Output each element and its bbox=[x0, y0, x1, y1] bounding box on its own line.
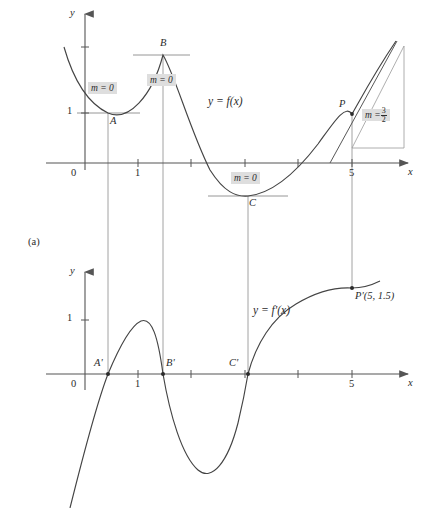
point-marker-P-prime bbox=[350, 286, 354, 290]
top-y-axis-label: y bbox=[70, 8, 75, 19]
point-label-C-prime: C' bbox=[229, 358, 238, 369]
top-x-tick-label-5: 5 bbox=[349, 168, 354, 179]
calculus-figure: y x 0 1 1 5 y = f(x) A B C P m = 0 m = 0… bbox=[0, 0, 424, 508]
slope-annotation-C: m = 0 bbox=[231, 174, 260, 184]
curve-f-prime bbox=[70, 281, 380, 508]
point-marker-B-prime bbox=[161, 372, 165, 376]
top-graph-panel bbox=[46, 14, 408, 374]
slope-annotation-P: m =32 bbox=[362, 107, 390, 125]
slope-annotation-C-text: m = 0 bbox=[231, 172, 260, 184]
bottom-x-tick-label-5: 5 bbox=[349, 379, 354, 390]
panel-label-a: (a) bbox=[28, 237, 40, 248]
slope-triangle-hypotenuse bbox=[352, 46, 404, 148]
curve-label-f: y = f(x) bbox=[208, 96, 243, 108]
bottom-y-axis-label: y bbox=[70, 266, 75, 277]
slope-annotation-B: m = 0 bbox=[147, 76, 176, 86]
slope-fraction: 32 bbox=[381, 107, 387, 125]
point-marker-C-prime bbox=[246, 372, 250, 376]
curve-label-f-prime: y = f'(x) bbox=[253, 305, 290, 317]
slope-annotation-P-wrap: m =32 bbox=[362, 109, 390, 121]
top-x-tick-label-1: 1 bbox=[135, 168, 140, 179]
point-label-A-prime: A' bbox=[94, 358, 103, 369]
bottom-origin-label: 0 bbox=[71, 379, 76, 390]
point-label-P-prime: P'(5, 1.5) bbox=[355, 291, 394, 302]
top-x-axis-label: x bbox=[408, 167, 413, 178]
slope-annotation-A-text: m = 0 bbox=[88, 82, 117, 94]
point-marker-P bbox=[350, 112, 354, 116]
top-y-tick-label-1: 1 bbox=[67, 106, 72, 117]
slope-annotation-B-text: m = 0 bbox=[147, 74, 176, 86]
slope-fraction-denominator: 2 bbox=[381, 116, 387, 124]
bottom-x-tick-label-1: 1 bbox=[135, 379, 140, 390]
slope-annotation-A: m = 0 bbox=[88, 84, 117, 94]
bottom-y-tick-label-1: 1 bbox=[67, 313, 72, 324]
top-origin-label: 0 bbox=[71, 168, 76, 179]
figure-canvas bbox=[0, 0, 424, 508]
point-label-P: P bbox=[339, 99, 345, 110]
point-marker-A-prime bbox=[106, 372, 110, 376]
point-label-B-prime: B' bbox=[166, 358, 175, 369]
point-label-A: A bbox=[110, 116, 116, 127]
point-label-C: C bbox=[249, 198, 256, 209]
bottom-graph-panel bbox=[46, 272, 408, 508]
point-label-B: B bbox=[160, 38, 166, 49]
slope-annotation-P-prefix: m = bbox=[365, 110, 381, 120]
bottom-x-axis-label: x bbox=[408, 378, 413, 389]
slope-triangle-P bbox=[352, 46, 404, 148]
